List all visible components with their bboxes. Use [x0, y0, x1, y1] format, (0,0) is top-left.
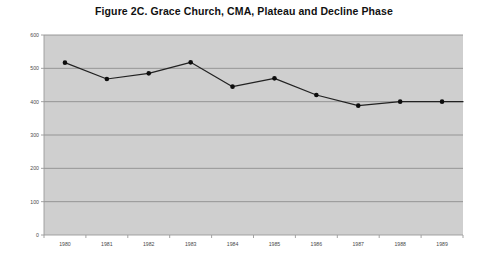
- x-tick-label: 1987: [352, 241, 364, 247]
- chart-plot-area: 0100200300400500600 19801981198219831984…: [0, 0, 488, 264]
- x-tick-label: 1980: [59, 241, 71, 247]
- x-tick-label: 1984: [227, 241, 239, 247]
- y-tick-label: 200: [30, 165, 39, 171]
- x-tick-label: 1989: [436, 241, 448, 247]
- data-point-marker: [272, 76, 277, 81]
- data-point-marker: [398, 99, 403, 104]
- y-tick-label: 0: [36, 232, 39, 238]
- data-point-marker: [314, 93, 319, 98]
- data-point-marker: [356, 103, 361, 108]
- figure-container: Figure 2C. Grace Church, CMA, Plateau an…: [0, 0, 488, 264]
- y-tick-label: 400: [30, 99, 39, 105]
- x-tick-labels: 1980198119821983198419851986198719881989: [59, 241, 448, 247]
- x-tick-label: 1988: [394, 241, 406, 247]
- y-tick-label: 600: [30, 32, 39, 38]
- y-tick-label: 300: [30, 132, 39, 138]
- data-point-marker: [188, 60, 193, 65]
- x-tick-label: 1986: [311, 241, 323, 247]
- y-tick-label: 100: [30, 199, 39, 205]
- data-point-marker: [230, 84, 235, 89]
- line-chart-svg: 0100200300400500600 19801981198219831984…: [0, 0, 488, 264]
- y-tick-label: 500: [30, 65, 39, 71]
- data-point-marker: [105, 77, 110, 82]
- data-point-marker: [63, 60, 68, 65]
- x-tick-label: 1981: [101, 241, 113, 247]
- x-tick-label: 1982: [143, 241, 155, 247]
- x-tick-label: 1983: [185, 241, 197, 247]
- x-axis: [44, 235, 463, 238]
- y-tick-labels: 0100200300400500600: [30, 32, 39, 238]
- data-point-marker: [440, 99, 445, 104]
- data-point-marker: [146, 71, 151, 76]
- x-tick-label: 1985: [269, 241, 281, 247]
